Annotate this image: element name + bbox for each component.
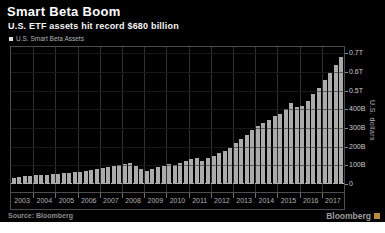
data-bar (289, 103, 293, 184)
data-bar (51, 174, 55, 184)
y-axis-tick (345, 72, 348, 73)
y-axis-tick-label: 300B (349, 124, 365, 132)
data-bar (195, 158, 199, 184)
y-axis-tick-label: 400B (349, 105, 365, 113)
data-bar (217, 153, 221, 184)
x-axis-year-separator (122, 193, 123, 198)
x-axis-year-label: 2013 (233, 197, 255, 204)
bloomberg-watermark-text: Bloomberg (326, 211, 371, 221)
x-axis-year-separator (277, 193, 278, 198)
data-bar (78, 172, 82, 184)
data-bar (34, 175, 38, 184)
data-bar (17, 177, 21, 184)
x-axis-year-separator (55, 193, 56, 198)
y-axis-tick-label: 0.7T (349, 49, 363, 57)
y-axis-tick (345, 165, 348, 166)
y-axis-tick (345, 184, 348, 185)
data-bar (150, 169, 154, 184)
x-axis-year-label: 2005 (55, 197, 77, 204)
plot-area (10, 46, 345, 193)
bloomberg-chart-screenshot: Smart Beta Boom U.S. ETF assets hit reco… (0, 0, 385, 233)
legend-label: U.S. Smart Beta Assets (16, 35, 84, 42)
x-axis-year-label: 2003 (11, 197, 33, 204)
x-axis-year-separator (211, 193, 212, 198)
data-bar (28, 176, 32, 184)
data-bar (245, 135, 249, 184)
y-axis-title: U.S. dollars (369, 100, 376, 141)
bloomberg-logo-icon (374, 213, 380, 219)
chart-subtitle: U.S. ETF assets hit record $680 billion (8, 21, 179, 31)
x-axis-year-separator (78, 193, 79, 198)
x-axis-year-label: 2004 (33, 197, 55, 204)
data-bar (73, 172, 77, 184)
y-axis-tick-label: 100B (349, 161, 365, 169)
data-bar (123, 164, 127, 184)
y-axis-tick (345, 91, 348, 92)
data-bar (117, 165, 121, 184)
data-bar (323, 80, 327, 184)
legend: U.S. Smart Beta Assets (9, 35, 84, 42)
x-axis-year-separator (144, 193, 145, 198)
data-bar (84, 171, 88, 184)
x-axis-year-label: 2011 (189, 197, 211, 204)
x-axis-year-label: 2009 (144, 197, 166, 204)
y-axis-tick-label: 0.5T (349, 87, 363, 95)
gridline-horizontal-overlay (11, 128, 344, 129)
chart-title: Smart Beta Boom (7, 4, 121, 19)
x-axis-year-separator (233, 193, 234, 198)
y-axis-tick (345, 147, 348, 148)
data-bar (101, 168, 105, 184)
data-bar (45, 175, 49, 185)
y-axis-tick-label: 0 (349, 180, 353, 188)
x-axis-year-separator (255, 193, 256, 198)
gridline-horizontal-overlay (11, 53, 344, 54)
gridline-vertical (33, 47, 34, 192)
gridline-vertical (78, 47, 79, 192)
gridline-horizontal-overlay (11, 109, 344, 110)
data-bar (156, 167, 160, 184)
y-axis-tick (345, 128, 348, 129)
plot-inner (11, 47, 344, 192)
data-bar (95, 169, 99, 184)
gridline-horizontal-overlay (11, 91, 344, 92)
data-bar (112, 166, 116, 184)
data-bar (167, 164, 171, 184)
data-bar (39, 175, 43, 184)
x-axis-year-label: 2006 (78, 197, 100, 204)
x-axis-strip: 2003200420052006200720082009201020112012… (10, 193, 345, 210)
data-bar (250, 130, 254, 185)
data-bar (23, 176, 27, 184)
gridline-horizontal-overlay (11, 72, 344, 73)
data-bar (206, 158, 210, 184)
data-bar (184, 161, 188, 185)
x-axis-year-label: 2017 (322, 197, 344, 204)
data-bar (12, 178, 16, 185)
y-axis-tick (345, 53, 348, 54)
x-axis-year-separator (100, 193, 101, 198)
x-axis-year-separator (300, 193, 301, 198)
source-attribution: Source: Bloomberg (8, 212, 73, 219)
data-bar (278, 114, 282, 184)
data-bar (273, 116, 277, 184)
legend-swatch-icon (9, 37, 13, 41)
data-bar (212, 156, 216, 184)
y-axis-tick-label: 200B (349, 143, 365, 151)
data-bar (300, 106, 304, 184)
data-bar (189, 159, 193, 184)
x-axis-year-separator (166, 193, 167, 198)
y-axis-tick-label: 0.6T (349, 68, 363, 76)
data-bar (134, 166, 138, 184)
data-bar (234, 143, 238, 184)
x-axis-year-label: 2007 (100, 197, 122, 204)
data-bar (89, 170, 93, 184)
data-bar (256, 126, 260, 184)
data-bar (162, 166, 166, 185)
data-bar (56, 174, 60, 184)
data-bar (145, 171, 149, 184)
bottom-margin (0, 222, 385, 233)
data-bar (106, 167, 110, 184)
data-bar (311, 94, 315, 184)
data-bar (139, 169, 143, 184)
bloomberg-watermark: Bloomberg (326, 211, 380, 221)
x-axis-year-label: 2016 (300, 197, 322, 204)
